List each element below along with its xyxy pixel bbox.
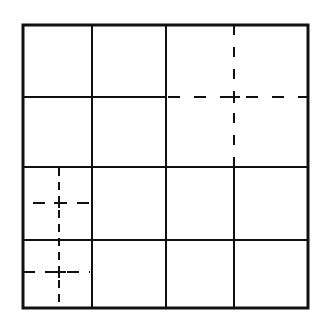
grid-diagram xyxy=(0,0,324,335)
crosshair-bottom-left xyxy=(23,168,90,308)
grid-lines xyxy=(23,25,308,308)
crosshair-top-right xyxy=(168,25,308,167)
